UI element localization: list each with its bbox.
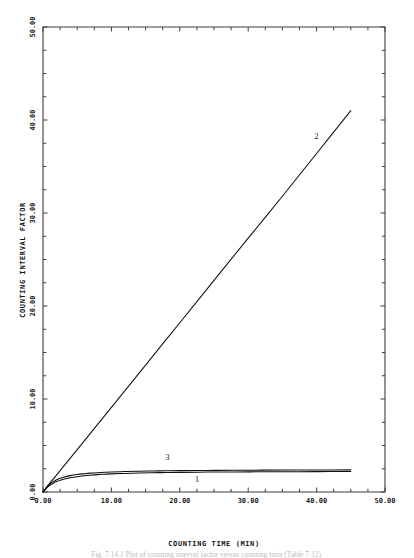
y-axis-tick-labels: 0.0010.0020.0030.0040.0050.00 [29, 16, 37, 500]
data-curve-2 [43, 111, 351, 492]
x-tick-label: 10.00 [101, 497, 122, 505]
x-tick-label: 20.00 [169, 497, 190, 505]
axis-frame [43, 27, 385, 492]
figure-caption: Fig. 7.14.1 Plot of counting interval fa… [91, 550, 323, 558]
axis-rect [43, 27, 385, 492]
y-tick-label: 50.00 [29, 16, 37, 37]
y-tick-label: 20.00 [29, 295, 37, 316]
figure-container: 0.0010.0020.0030.0040.0050.00 0.0010.002… [0, 0, 414, 558]
x-axis-tick-labels: 0.0010.0020.0030.0040.0050.00 [35, 497, 396, 505]
x-tick-label: 50.00 [374, 497, 395, 505]
series-label-2: 2 [315, 132, 319, 141]
series-label-1: 1 [195, 475, 199, 484]
x-tick-label: 40.00 [306, 497, 327, 505]
series-label-3: 3 [165, 453, 169, 462]
x-axis-title: COUNTING TIME (MIN) [168, 540, 259, 548]
y-tick-label: 10.00 [29, 388, 37, 409]
data-series-group [43, 111, 351, 492]
tick-marks-group [43, 27, 385, 492]
x-tick-label: 30.00 [238, 497, 259, 505]
y-tick-label: 40.00 [29, 109, 37, 130]
y-axis-title: COUNTING INTERVAL FACTOR [19, 202, 27, 318]
series-labels-group: 132 [165, 132, 318, 484]
y-tick-label: 30.00 [29, 202, 37, 223]
chart-plot: 0.0010.0020.0030.0040.0050.00 0.0010.002… [0, 0, 414, 558]
x-tick-label: 0.00 [35, 497, 52, 505]
